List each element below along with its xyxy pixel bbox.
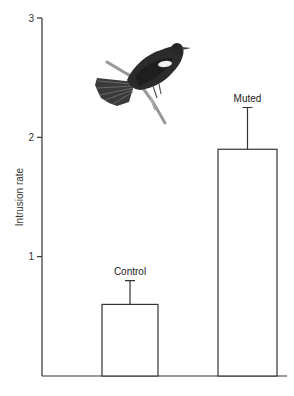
- bar-chart: 123 Intrusion rate ControlMuted: [0, 0, 294, 396]
- y-ticks: 123: [28, 13, 42, 263]
- bar-muted: [218, 149, 277, 376]
- y-tick-label: 1: [28, 251, 34, 262]
- bar-control: [102, 304, 158, 376]
- error-bar: [125, 281, 135, 305]
- y-tick-label: 3: [28, 13, 34, 24]
- bar-label: Control: [114, 266, 146, 277]
- bars: ControlMuted: [102, 93, 277, 377]
- y-tick-label: 2: [28, 132, 34, 143]
- y-axis-label: Intrusion rate: [14, 167, 25, 226]
- error-bar: [243, 108, 253, 150]
- red-winged-blackbird-icon: [95, 43, 191, 123]
- bar-label: Muted: [234, 93, 262, 104]
